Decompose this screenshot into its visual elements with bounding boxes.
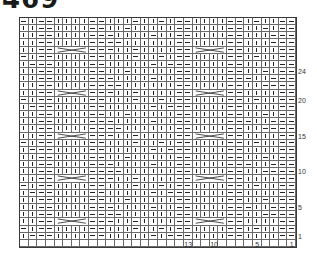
knit-stitch-icon <box>124 54 133 61</box>
purl-stitch-icon <box>89 111 98 118</box>
knit-stitch-icon <box>29 39 38 46</box>
purl-stitch-icon <box>89 125 98 132</box>
knit-stitch-icon <box>244 226 253 233</box>
purl-stitch-icon <box>106 125 115 132</box>
knit-stitch-icon <box>55 140 64 147</box>
knit-stitch-icon <box>132 197 141 204</box>
stitch-number-cell <box>115 240 124 247</box>
purl-stitch-icon <box>106 118 115 125</box>
purl-stitch-icon <box>98 125 107 132</box>
knit-stitch-icon <box>72 82 81 89</box>
stitch-number-cell <box>244 240 253 247</box>
knit-stitch-icon <box>149 97 158 104</box>
knit-stitch-icon <box>253 68 262 75</box>
knitting-chart: 131051 <box>19 17 297 248</box>
purl-stitch-icon <box>236 168 245 175</box>
knit-stitch-icon <box>218 111 227 118</box>
stitch-number-cell <box>201 240 210 247</box>
purl-stitch-icon <box>115 82 124 89</box>
purl-stitch-icon <box>98 75 107 82</box>
purl-stitch-icon <box>115 168 124 175</box>
knit-stitch-icon <box>55 54 64 61</box>
knit-stitch-icon <box>115 54 124 61</box>
knit-stitch-icon <box>270 25 279 32</box>
stitch-number-cell <box>270 240 279 247</box>
knit-stitch-icon <box>210 68 219 75</box>
knit-stitch-icon <box>149 133 158 140</box>
knit-stitch-icon <box>106 61 115 68</box>
knit-stitch-icon <box>253 118 262 125</box>
knit-stitch-icon <box>253 147 262 154</box>
purl-stitch-icon <box>98 140 107 147</box>
purl-stitch-icon <box>262 111 271 118</box>
purl-stitch-icon <box>184 18 193 25</box>
knit-stitch-icon <box>80 118 89 125</box>
purl-stitch-icon <box>287 218 296 225</box>
purl-stitch-icon <box>227 39 236 46</box>
knit-stitch-icon <box>244 104 253 111</box>
knit-stitch-icon <box>106 197 115 204</box>
knit-stitch-icon <box>158 32 167 39</box>
purl-stitch-icon <box>89 47 98 54</box>
purl-stitch-icon <box>184 190 193 197</box>
knit-stitch-icon <box>124 161 133 168</box>
purl-stitch-icon <box>98 183 107 190</box>
knit-stitch-icon <box>106 97 115 104</box>
knit-stitch-icon <box>158 168 167 175</box>
purl-stitch-icon <box>46 190 55 197</box>
stitch-number-cell <box>72 240 81 247</box>
knit-stitch-icon <box>201 39 210 46</box>
knit-stitch-icon <box>29 197 38 204</box>
purl-stitch-icon <box>184 161 193 168</box>
knit-stitch-icon <box>262 233 271 240</box>
purl-stitch-icon <box>46 118 55 125</box>
purl-stitch-icon <box>287 140 296 147</box>
knit-stitch-icon <box>106 154 115 161</box>
knit-stitch-icon <box>193 226 202 233</box>
knit-stitch-icon <box>72 54 81 61</box>
purl-stitch-icon <box>37 218 46 225</box>
purl-stitch-icon <box>287 18 296 25</box>
purl-stitch-icon <box>175 125 184 132</box>
knit-stitch-icon <box>167 82 176 89</box>
purl-stitch-icon <box>287 175 296 182</box>
purl-stitch-icon <box>279 147 288 154</box>
knit-stitch-icon <box>193 54 202 61</box>
knit-stitch-icon <box>253 197 262 204</box>
purl-stitch-icon <box>262 197 271 204</box>
purl-stitch-icon <box>89 97 98 104</box>
knit-stitch-icon <box>167 68 176 75</box>
purl-stitch-icon <box>253 226 262 233</box>
knit-stitch-icon <box>167 32 176 39</box>
knit-stitch-icon <box>149 140 158 147</box>
knit-stitch-icon <box>55 183 64 190</box>
purl-stitch-icon <box>227 226 236 233</box>
knit-stitch-icon <box>20 197 29 204</box>
purl-stitch-icon <box>253 18 262 25</box>
purl-stitch-icon <box>279 125 288 132</box>
purl-stitch-icon <box>46 125 55 132</box>
knit-stitch-icon <box>124 97 133 104</box>
purl-stitch-icon <box>89 147 98 154</box>
knit-stitch-icon <box>244 125 253 132</box>
knit-stitch-icon <box>201 18 210 25</box>
knit-stitch-icon <box>149 25 158 32</box>
purl-stitch-icon <box>270 32 279 39</box>
purl-stitch-icon <box>98 154 107 161</box>
knit-stitch-icon <box>124 118 133 125</box>
purl-stitch-icon <box>279 168 288 175</box>
purl-stitch-icon <box>184 61 193 68</box>
knit-stitch-icon <box>167 197 176 204</box>
purl-stitch-icon <box>89 133 98 140</box>
purl-stitch-icon <box>184 104 193 111</box>
knit-stitch-icon <box>106 226 115 233</box>
knit-stitch-icon <box>124 140 133 147</box>
knit-stitch-icon <box>201 233 210 240</box>
knit-stitch-icon <box>132 204 141 211</box>
knit-stitch-icon <box>201 118 210 125</box>
knit-stitch-icon <box>218 147 227 154</box>
knit-stitch-icon <box>158 68 167 75</box>
purl-stitch-icon <box>184 47 193 54</box>
knit-stitch-icon <box>270 140 279 147</box>
purl-stitch-icon <box>149 118 158 125</box>
